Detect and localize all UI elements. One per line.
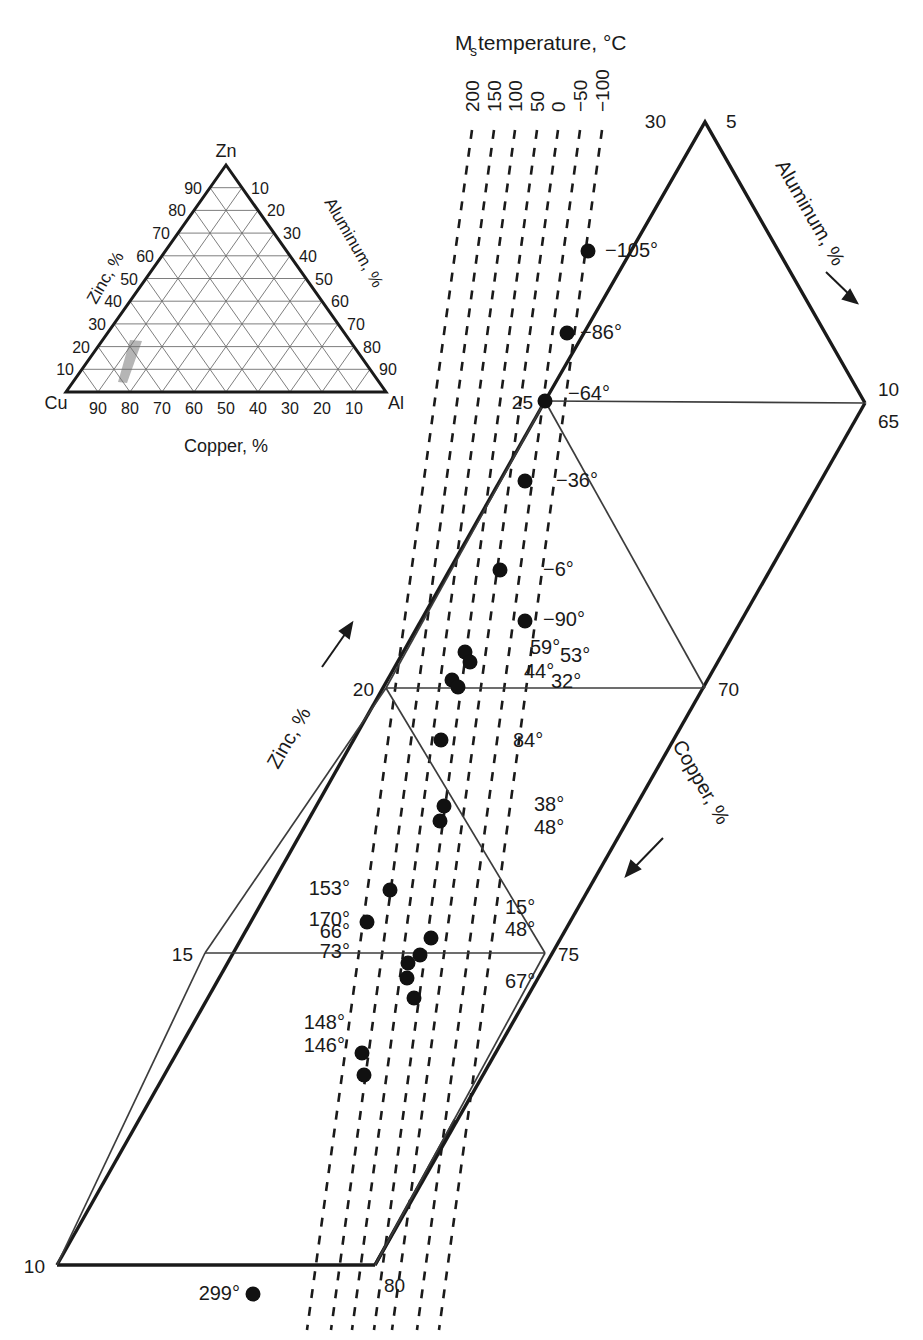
data-point-label: −105° xyxy=(605,239,658,261)
inset-tick-left-30: 30 xyxy=(88,316,106,333)
data-point-marker xyxy=(434,733,449,748)
outline-right-edge xyxy=(375,403,865,1265)
outline-top-triangle xyxy=(545,122,865,403)
data-point: 153° xyxy=(309,877,398,899)
iso-tick-label-150: 150 xyxy=(484,80,505,112)
iso-tick-label-50: 50 xyxy=(527,91,548,112)
zinc-axis-label: Zinc, % xyxy=(262,703,315,772)
data-point-label: 153° xyxy=(309,877,350,899)
inset-tick-bottom-30: 30 xyxy=(281,400,299,417)
inset-tick-bottom-70: 70 xyxy=(153,400,171,417)
inset-grid-left xyxy=(146,279,226,393)
inset-tick-left-10: 10 xyxy=(56,361,74,378)
data-point-marker xyxy=(383,883,398,898)
inset-tick-bottom-80: 80 xyxy=(121,400,139,417)
zig-80-up-to-75 xyxy=(375,953,545,1265)
iso-line-tick-labels: 200 150 100 50 0 −50 −100 xyxy=(462,69,613,112)
iso-tick-label-0: 0 xyxy=(548,101,569,112)
data-point-label: −6° xyxy=(543,558,574,580)
inset-ternary-diagram: Zn Cu Al Zinc, % Aluminum, % Copper, % 9… xyxy=(44,141,404,456)
data-point: −86° xyxy=(560,321,622,343)
data-point-label: 67° xyxy=(505,970,535,992)
inset-tick-bottom-20: 20 xyxy=(313,400,331,417)
figure-title: M s temperature, °C xyxy=(455,31,626,59)
inset-grid-right xyxy=(162,233,274,392)
data-point-label: 48° xyxy=(505,918,535,940)
iso-tick-label-100: 100 xyxy=(505,80,526,112)
vertex-label-right-65: 65 xyxy=(878,411,899,432)
inset-tick-right-50: 50 xyxy=(315,271,333,288)
inset-tick-right-80: 80 xyxy=(363,339,381,356)
inset-tick-bottom-40: 40 xyxy=(249,400,267,417)
data-point-marker xyxy=(246,1287,261,1302)
inset-tick-bottom-90: 90 xyxy=(89,400,107,417)
data-point-marker xyxy=(407,991,422,1006)
data-point-label: 53° xyxy=(560,644,590,666)
aluminum-axis-label: Aluminum, % xyxy=(772,156,850,269)
inset-grid-right xyxy=(354,369,370,392)
vertex-label-15: 15 xyxy=(172,944,193,965)
data-point-marker xyxy=(518,614,533,629)
inset-tick-left-70: 70 xyxy=(152,225,170,242)
copper-axis-label: Copper, % xyxy=(669,736,735,828)
data-point-label: 48° xyxy=(534,816,564,838)
inset-grid-left xyxy=(82,369,98,392)
data-point-marker xyxy=(581,244,596,259)
aluminum-axis-annotation: Aluminum, % xyxy=(772,156,857,303)
data-point: 84° xyxy=(434,729,544,751)
data-point: −64° xyxy=(538,382,610,409)
data-point-label: −36° xyxy=(556,469,598,491)
data-point-marker xyxy=(518,474,533,489)
data-point-marker xyxy=(424,931,439,946)
inset-grid-right xyxy=(226,279,306,393)
vertex-label-25: 25 xyxy=(512,392,533,413)
inset-bottom-axis-label: Copper, % xyxy=(184,436,268,456)
data-point-marker xyxy=(400,971,415,986)
vertex-label-10: 10 xyxy=(24,1256,45,1277)
data-point-marker xyxy=(451,680,466,695)
data-point-label: −90° xyxy=(543,608,585,630)
inset-apex-label-zn: Zn xyxy=(215,141,236,161)
data-point-marker xyxy=(433,814,448,829)
inset-tick-right-10: 10 xyxy=(251,180,269,197)
data-point-marker xyxy=(437,799,452,814)
data-point-marker xyxy=(357,1068,372,1083)
inset-tick-left-20: 20 xyxy=(72,339,90,356)
figure-title-rest: temperature, °C xyxy=(478,31,626,54)
inset-tick-bottom-10: 10 xyxy=(345,400,363,417)
data-point: −105° xyxy=(581,239,659,261)
vertex-label-right-10: 10 xyxy=(878,379,899,400)
iso-tick-label-minus50: −50 xyxy=(570,80,591,112)
vertex-label-top-left-30: 30 xyxy=(645,111,666,132)
data-point: 32° xyxy=(451,670,582,695)
inset-corner-label-cu: Cu xyxy=(44,393,67,413)
data-point-label: −64° xyxy=(568,382,610,404)
outline-left-edge xyxy=(57,401,545,1265)
inset-tick-right-30: 30 xyxy=(283,225,301,242)
copper-axis-annotation: Copper, % xyxy=(626,736,734,876)
iso-line-150 xyxy=(331,130,494,1330)
data-point-label: 15° xyxy=(505,896,535,918)
data-point-marker xyxy=(401,956,416,971)
vertex-label-top-right-5: 5 xyxy=(726,111,737,132)
ternary-ms-temperature-diagram: M s temperature, °C 200 150 100 50 0 −50… xyxy=(0,0,923,1340)
iso-tick-label-200: 200 xyxy=(462,80,483,112)
data-point-label: 146° xyxy=(304,1034,345,1056)
iso-ms-temperature-lines xyxy=(307,130,602,1330)
data-point: −36° xyxy=(518,469,598,491)
data-point-label: 38° xyxy=(534,793,564,815)
data-point-label: 73° xyxy=(320,940,350,962)
figure-title-subscript: s xyxy=(470,43,477,59)
inset-tick-bottom-50: 50 xyxy=(217,400,235,417)
inset-tick-right-20: 20 xyxy=(267,202,285,219)
data-point-marker xyxy=(355,1046,370,1061)
inset-tick-right-70: 70 xyxy=(347,316,365,333)
zinc-axis-annotation: Zinc, % xyxy=(262,623,352,772)
data-point-marker xyxy=(493,563,508,578)
data-points-layer: −105°−86°−64°−36°−6°−90°59°53°44°32°84°3… xyxy=(199,239,658,1304)
aluminum-axis-arrow xyxy=(826,272,857,303)
data-point: −6° xyxy=(493,558,574,580)
data-point-label: 148° xyxy=(304,1011,345,1033)
inset-tick-left-40: 40 xyxy=(104,293,122,310)
inset-tick-left-90: 90 xyxy=(184,180,202,197)
